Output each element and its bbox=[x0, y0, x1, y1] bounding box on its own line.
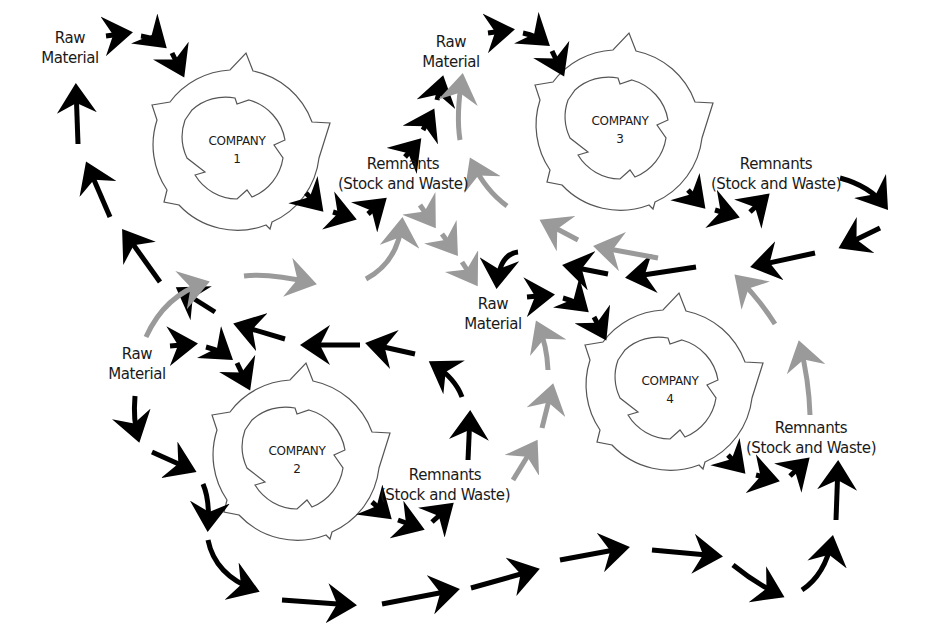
company-name: COMPANY bbox=[591, 112, 648, 130]
label-line: Material bbox=[108, 364, 166, 384]
company-number: 3 bbox=[591, 130, 648, 148]
label-line: Raw bbox=[108, 344, 166, 364]
raw-material-label-1: Raw Material bbox=[41, 28, 99, 68]
label-line: (Stock and Waste) bbox=[380, 485, 510, 505]
label-line: (Stock and Waste) bbox=[746, 438, 876, 458]
label-line: Material bbox=[41, 48, 99, 68]
remnants-label-4: Remnants (Stock and Waste) bbox=[746, 418, 876, 458]
label-line: Raw bbox=[41, 28, 99, 48]
company-number: 4 bbox=[641, 390, 698, 408]
raw-material-label-4: Raw Material bbox=[464, 294, 522, 334]
company-name: COMPANY bbox=[268, 442, 325, 460]
raw-material-label-3: Raw Material bbox=[422, 32, 480, 72]
label-line: (Stock and Waste) bbox=[711, 174, 841, 194]
label-line: Remnants bbox=[711, 154, 841, 174]
company-number: 2 bbox=[268, 460, 325, 478]
label-line: Raw bbox=[422, 32, 480, 52]
remnants-label-2: Remnants (Stock and Waste) bbox=[380, 465, 510, 505]
label-line: Remnants bbox=[338, 154, 468, 174]
company-4-label: COMPANY 4 bbox=[641, 372, 698, 408]
company-1-label: COMPANY 1 bbox=[208, 132, 265, 168]
company-2-label: COMPANY 2 bbox=[268, 442, 325, 478]
label-line: Raw bbox=[464, 294, 522, 314]
label-line: Remnants bbox=[380, 465, 510, 485]
label-line: Remnants bbox=[746, 418, 876, 438]
flow-diagram bbox=[0, 0, 925, 634]
label-line: Material bbox=[464, 314, 522, 334]
label-line: (Stock and Waste) bbox=[338, 174, 468, 194]
label-line: Material bbox=[422, 52, 480, 72]
raw-material-label-2: Raw Material bbox=[108, 344, 166, 384]
company-name: COMPANY bbox=[641, 372, 698, 390]
company-number: 1 bbox=[208, 150, 265, 168]
company-3-label: COMPANY 3 bbox=[591, 112, 648, 148]
company-name: COMPANY bbox=[208, 132, 265, 150]
remnants-label-3: Remnants (Stock and Waste) bbox=[711, 154, 841, 194]
remnants-label-1: Remnants (Stock and Waste) bbox=[338, 154, 468, 194]
